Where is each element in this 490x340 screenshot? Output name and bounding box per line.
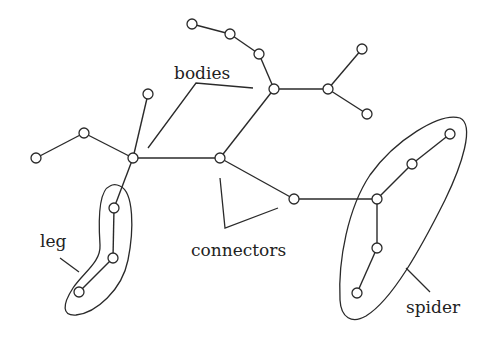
vertex-node — [352, 288, 362, 298]
vertex-node — [445, 129, 455, 139]
edge — [133, 94, 148, 158]
connectors-label: connectors — [191, 240, 286, 260]
edge — [36, 133, 84, 158]
vertex-node — [128, 153, 138, 163]
vertex-node — [372, 243, 382, 253]
tree-diagram: bodies connectors leg spider — [0, 0, 490, 340]
edge — [328, 49, 362, 89]
vertex-node — [187, 19, 197, 29]
edge — [357, 248, 377, 293]
vertex-node — [323, 84, 333, 94]
vertex-node — [79, 128, 89, 138]
edge — [113, 208, 114, 258]
edge — [220, 158, 294, 199]
edge — [328, 89, 367, 114]
bodies-pointer — [148, 83, 253, 148]
vertex-node — [31, 153, 41, 163]
vertex-node — [225, 29, 235, 39]
vertex-node — [269, 84, 279, 94]
vertex-node — [109, 203, 119, 213]
vertex-node — [74, 287, 84, 297]
vertex-node — [108, 253, 118, 263]
vertex-node — [254, 49, 264, 59]
edge — [192, 24, 230, 34]
vertex-node — [357, 44, 367, 54]
vertex-node — [362, 109, 372, 119]
edge — [377, 164, 412, 199]
edge — [259, 54, 274, 89]
vertex-node — [143, 89, 153, 99]
bodies-label: bodies — [174, 63, 230, 83]
vertex-node — [407, 159, 417, 169]
edge — [412, 134, 450, 164]
vertex-node — [372, 194, 382, 204]
spider-pointer — [406, 268, 430, 292]
leg-pointer — [60, 258, 79, 272]
edge — [220, 89, 274, 158]
leg-label: leg — [40, 231, 66, 251]
spider-label: spider — [406, 297, 461, 317]
vertex-node — [215, 153, 225, 163]
edge — [84, 133, 133, 158]
vertex-node — [289, 194, 299, 204]
